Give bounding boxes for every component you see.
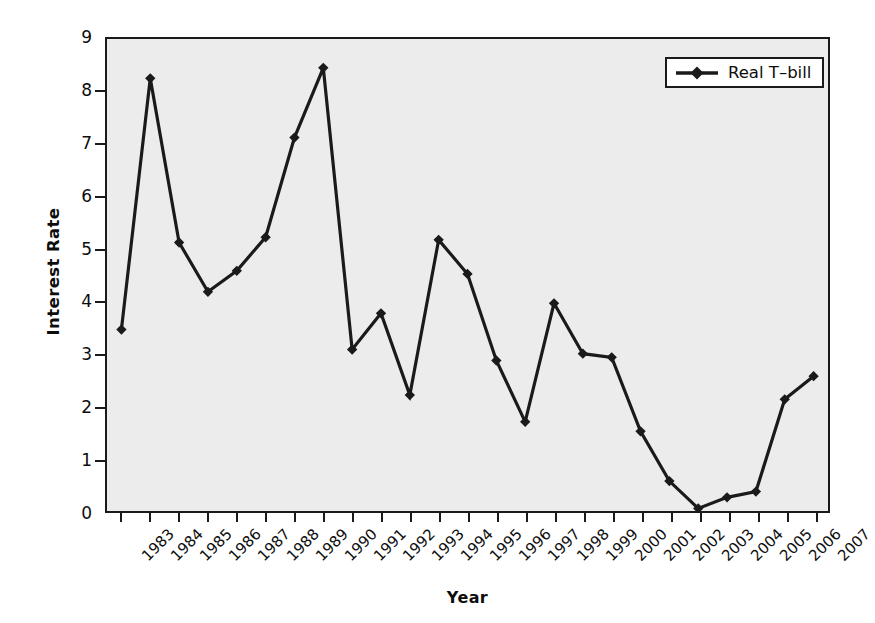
x-axis-tick-label: 1993 [428, 525, 468, 565]
y-axis-tick-label: 6 [62, 186, 92, 206]
x-axis-tick-mark [381, 513, 383, 522]
x-axis-tick-mark [497, 513, 499, 522]
x-axis-tick-label: 2007 [834, 525, 874, 565]
y-axis-tick-label: 4 [62, 291, 92, 311]
x-axis-tick-mark [178, 513, 180, 522]
x-axis-tick-label: 2001 [660, 525, 700, 565]
series-data-point-marker [116, 324, 126, 334]
x-axis-tick-label: 1997 [544, 525, 584, 565]
x-axis-tick-mark [729, 513, 731, 522]
x-axis-tick-mark [555, 513, 557, 522]
x-axis-tick-mark [439, 513, 441, 522]
x-axis-tick-label: 1988 [283, 525, 323, 565]
x-axis-tick-label: 2006 [805, 525, 845, 565]
x-axis-tick-label: 1989 [312, 525, 352, 565]
y-axis-tick-label: 8 [62, 80, 92, 100]
x-axis-tick-label: 2000 [631, 525, 671, 565]
x-axis-tick-label: 1990 [341, 525, 381, 565]
x-axis-tick-mark [236, 513, 238, 522]
y-axis-tick-label: 5 [62, 239, 92, 259]
y-axis-tick-label: 1 [62, 450, 92, 470]
series-line [121, 68, 813, 509]
plot-area [105, 37, 830, 513]
x-axis-tick-label: 1987 [254, 525, 294, 565]
x-axis-tick-label: 1986 [225, 525, 265, 565]
x-axis-tick-label: 1998 [573, 525, 613, 565]
x-axis-tick-mark [207, 513, 209, 522]
x-axis-tick-label: 2004 [747, 525, 787, 565]
series-data-point-marker [318, 63, 328, 73]
x-axis-tick-mark [787, 513, 789, 522]
x-axis-tick-mark [149, 513, 151, 522]
y-axis-tick-label: 9 [62, 27, 92, 47]
x-axis-tick-mark [526, 513, 528, 522]
series-data-point-marker [491, 355, 501, 365]
x-axis-tick-mark [468, 513, 470, 522]
chart-figure: Interest Rate 0123456789 198319841985198… [0, 0, 875, 623]
series-data-point-marker [405, 390, 415, 400]
x-axis-tick-label: 1991 [370, 525, 410, 565]
y-axis-tick-label: 7 [62, 133, 92, 153]
x-axis-tick-mark [816, 513, 818, 522]
y-axis-tick-label: 2 [62, 397, 92, 417]
x-axis-tick-mark [700, 513, 702, 522]
x-axis-title: Year [105, 588, 830, 607]
x-axis-tick-mark [613, 513, 615, 522]
x-axis-tick-mark [294, 513, 296, 522]
x-axis-tick-mark [265, 513, 267, 522]
x-axis-tick-label: 2003 [718, 525, 758, 565]
series-canvas [107, 39, 828, 511]
x-axis-tick-label: 2002 [689, 525, 729, 565]
x-axis-tick-mark [584, 513, 586, 522]
y-axis-tick-label: 0 [62, 503, 92, 523]
x-axis-tick-label: 1983 [138, 525, 178, 565]
x-axis-tick-label: 1985 [196, 525, 236, 565]
series-data-point-marker [607, 352, 617, 362]
x-axis-tick-mark [352, 513, 354, 522]
x-axis-tick-mark [410, 513, 412, 522]
x-axis-tick-label: 1999 [602, 525, 642, 565]
y-axis-tick-label: 3 [62, 344, 92, 364]
series-data-point-marker [289, 132, 299, 142]
legend-marker-icon [675, 65, 719, 81]
x-axis-tick-label: 1992 [399, 525, 439, 565]
x-axis-tick-mark [642, 513, 644, 522]
y-axis-tick-labels: 0123456789 [60, 0, 92, 623]
x-axis-tick-label: 1994 [457, 525, 497, 565]
x-axis-tick-mark [323, 513, 325, 522]
x-axis-tick-mark [671, 513, 673, 522]
series-data-point-marker [751, 486, 761, 496]
series-data-point-marker [520, 417, 530, 427]
x-axis-tick-mark [120, 513, 122, 522]
legend-entry-label: Real T–bill [728, 63, 811, 82]
x-axis-tick-label: 1984 [167, 525, 207, 565]
series-data-point-marker [145, 73, 155, 83]
x-axis-tick-label: 2005 [776, 525, 816, 565]
x-axis-tick-mark [758, 513, 760, 522]
x-axis-tick-label: 1996 [515, 525, 555, 565]
series-data-point-marker [722, 492, 732, 502]
x-axis-tick-label: 1995 [486, 525, 526, 565]
chart-legend: Real T–bill [665, 57, 824, 88]
